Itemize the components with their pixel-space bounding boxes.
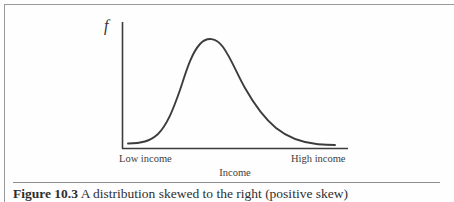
distribution-plot	[0, 4, 454, 178]
x-axis-label: Income	[122, 167, 348, 179]
figure-caption-number: Figure 10.3	[13, 186, 78, 201]
figure-page: f Low income High income Income Figure 1…	[0, 0, 454, 202]
x-axis-tick-high-income: High income	[291, 153, 346, 165]
y-axis-label: f	[104, 18, 108, 34]
caption-divider-rule	[13, 182, 440, 183]
x-axis-tick-low-income: Low income	[119, 153, 172, 165]
figure-caption: Figure 10.3 A distribution skewed to the…	[13, 186, 447, 202]
figure-plot-area: f Low income High income Income	[0, 4, 454, 178]
distribution-curve	[128, 39, 335, 145]
figure-caption-description: A distribution skewed to the right (posi…	[81, 186, 348, 201]
